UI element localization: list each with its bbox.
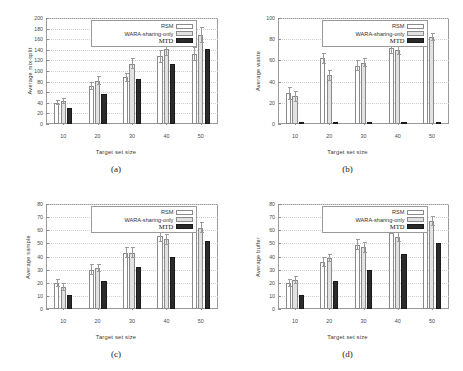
error-bar-cap (165, 55, 169, 56)
error-bar (160, 50, 161, 63)
error-bar-cap (328, 80, 332, 81)
plot-area-a: Average mix-split02040608010012014016018… (0, 0, 232, 186)
plot-area-d: Average buffer01020304050607080102030405… (232, 186, 463, 371)
x-tick-label: 10 (292, 318, 298, 324)
bar-rsm (54, 103, 59, 124)
error-bar-cap (159, 241, 163, 242)
legend-swatch-wara (407, 217, 424, 222)
y-tick-label: 180 (34, 26, 43, 32)
bar-mtd (367, 122, 372, 124)
bar-wara (198, 228, 203, 309)
error-bar (126, 247, 127, 258)
bar-wara (129, 253, 134, 309)
y-tick-label: 50 (269, 240, 275, 246)
error-bar (432, 33, 433, 41)
error-bar (295, 91, 296, 102)
bar-mtd (101, 281, 106, 309)
y-tick-label: 40 (269, 79, 275, 85)
legend-item-mtd[interactable]: MTD (95, 223, 194, 230)
error-bar-cap (397, 241, 401, 242)
y-tick-label: 0 (272, 306, 275, 312)
error-bar-cap (294, 101, 298, 102)
y-tick-label: 50 (37, 240, 43, 246)
bar-mtd (436, 243, 441, 309)
error-bar (329, 254, 330, 262)
error-bar-cap (125, 257, 129, 258)
error-bar-cap (322, 266, 326, 267)
legend-item-mtd[interactable]: MTD (326, 37, 424, 44)
bar-wara (61, 101, 66, 124)
error-bar-cap (200, 42, 204, 43)
x-tick-label: 30 (129, 318, 135, 324)
x-axis-ticks: 1020304050 (278, 133, 449, 141)
error-bar-cap (200, 27, 204, 28)
y-tick-label: 80 (37, 79, 43, 85)
legend-item-wara[interactable]: WARA-sharing-only (326, 30, 424, 37)
bar-mtd (299, 295, 304, 309)
y-axis-ticks: 01020304050607080 (254, 204, 275, 309)
error-bar (432, 216, 433, 227)
error-bar-cap (125, 81, 129, 82)
legend-item-wara[interactable]: WARA-sharing-only (95, 216, 194, 223)
x-tick-label: 30 (361, 133, 367, 139)
bar-wara (95, 81, 100, 124)
y-tick-label: 0 (40, 306, 43, 312)
legend-item-wara[interactable]: WARA-sharing-only (95, 30, 194, 37)
error-bar (323, 53, 324, 64)
error-bar-cap (62, 98, 66, 99)
error-bar (91, 82, 92, 90)
y-tick-label: 10 (37, 293, 43, 299)
error-bar-cap (62, 283, 66, 284)
bar-rsm (89, 86, 94, 124)
bar-mtd (136, 79, 141, 124)
error-bar-cap (431, 40, 435, 41)
error-bar-cap (97, 271, 101, 272)
bar-mtd (367, 270, 372, 309)
error-bar (323, 257, 324, 268)
x-axis-label: Target set size (0, 334, 232, 340)
legend-item-rsm[interactable]: RSM (326, 23, 424, 30)
x-tick-label: 10 (60, 133, 66, 139)
bar-wara (429, 37, 434, 124)
error-bar-cap (322, 63, 326, 64)
error-bar-cap (397, 54, 401, 55)
legend-swatch-mtd (407, 224, 424, 229)
error-bar-cap (363, 242, 367, 243)
chart-legend: RSMWARA-sharing-onlyMTD (322, 20, 428, 47)
x-tick-label: 30 (129, 133, 135, 139)
bar-mtd (401, 122, 406, 124)
legend-item-rsm[interactable]: RSM (95, 209, 194, 216)
bar-rsm (286, 283, 291, 309)
bar-rsm (192, 54, 197, 124)
legend-item-wara[interactable]: WARA-sharing-only (326, 216, 424, 223)
error-bar (364, 242, 365, 253)
y-tick-label: 30 (37, 267, 43, 273)
y-tick-label: 20 (37, 110, 43, 116)
legend-item-mtd[interactable]: MTD (326, 223, 424, 230)
y-axis-ticks: 020406080100120140160180200 (22, 18, 43, 124)
x-tick-label: 50 (198, 318, 204, 324)
error-bar-cap (328, 70, 332, 71)
bar-rsm (320, 262, 325, 309)
error-bar-cap (356, 249, 360, 250)
plot-area-c: Average sample01020304050607080102030405… (0, 186, 232, 371)
bar-wara (164, 49, 169, 124)
y-tick-label: 60 (269, 227, 275, 233)
legend-item-mtd[interactable]: MTD (95, 37, 194, 44)
error-bar-cap (328, 261, 332, 262)
legend-swatch-mtd (176, 38, 193, 43)
legend-item-rsm[interactable]: RSM (326, 209, 424, 216)
error-bar-cap (159, 62, 163, 63)
error-bar-cap (356, 70, 360, 71)
y-tick-label: 70 (269, 214, 275, 220)
chart-panel-d: Average buffer01020304050607080102030405… (232, 186, 463, 371)
error-bar (98, 76, 99, 86)
legend-item-rsm[interactable]: RSM (95, 23, 194, 30)
legend-swatch-wara (176, 31, 193, 36)
y-tick-mark (46, 309, 49, 310)
error-bar-cap (363, 58, 367, 59)
bar-rsm (123, 253, 128, 309)
x-tick-label: 50 (198, 133, 204, 139)
bar-group (286, 204, 304, 309)
error-bar (201, 222, 202, 233)
